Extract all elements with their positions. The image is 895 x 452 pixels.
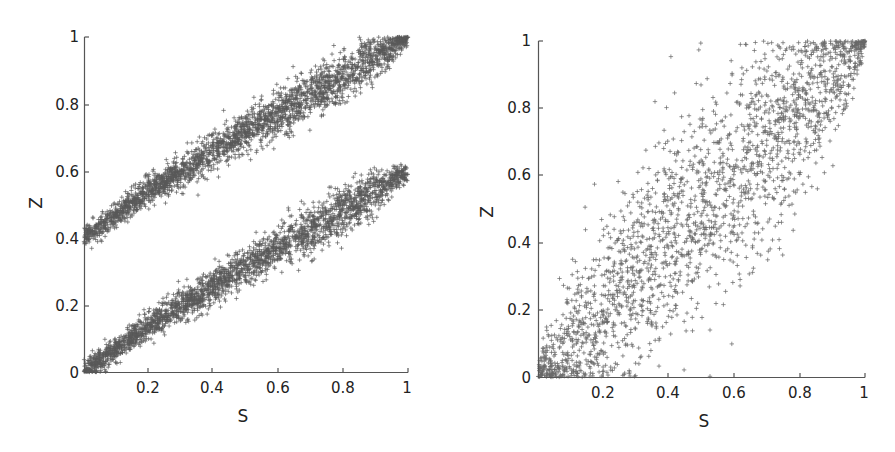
left-xtick-label: 0.2 — [136, 379, 160, 397]
right-ytick-label: 1 — [521, 32, 531, 50]
left-xtick-label: 0.8 — [331, 379, 355, 397]
left-xtick-label: 1 — [402, 379, 412, 397]
left-ytick-label: 0 — [69, 364, 79, 382]
right-xtick-label: 0.2 — [591, 384, 615, 402]
left-ytick-label: 0.6 — [55, 163, 79, 181]
scatter-markers — [82, 35, 410, 374]
left-xtick-label: 0.6 — [266, 379, 290, 397]
right-xtick-label: 0.8 — [788, 384, 812, 402]
right-y-axis — [539, 41, 544, 377]
left-y-axis-label: Z — [26, 197, 46, 209]
left-ytick-label: 0.4 — [55, 230, 79, 248]
left-x-axis — [84, 368, 408, 373]
right-ytick-label: 0.8 — [507, 99, 531, 117]
right-y-axis-label: Z — [477, 206, 497, 218]
right-xtick-label: 0.4 — [656, 384, 680, 402]
left-x-axis-label: S — [238, 406, 249, 426]
scatter-markers — [536, 39, 867, 379]
left-points — [82, 35, 410, 374]
right-xtick-label: 0.6 — [722, 384, 746, 402]
right-ytick-label: 0.4 — [507, 234, 531, 252]
right-points — [536, 39, 867, 379]
right-ytick-label: 0 — [521, 369, 531, 387]
right-x-axis-label: S — [699, 411, 710, 431]
left-ytick-label: 1 — [69, 28, 79, 46]
left-ytick-label: 0.8 — [55, 96, 79, 114]
right-xtick-label: 1 — [859, 384, 869, 402]
left-scatter-plot: 0 0.2 0.4 0.6 0.8 1 0.2 0.4 0.6 0.8 1 S … — [0, 0, 895, 452]
right-ytick-label: 0.6 — [507, 166, 531, 184]
right-ytick-label: 0.2 — [507, 301, 531, 319]
left-y-axis — [85, 37, 90, 372]
left-xtick-label: 0.4 — [200, 379, 224, 397]
left-ytick-label: 0.2 — [55, 297, 79, 315]
